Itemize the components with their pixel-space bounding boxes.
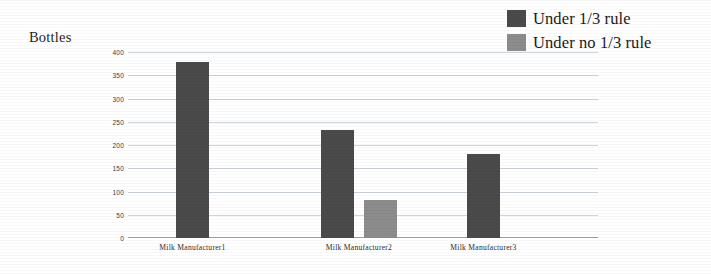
y-tick-label: 250 — [90, 118, 124, 125]
chart-plot-area — [128, 52, 598, 238]
x-axis-tick-labels: Milk Manufacturer1Milk Manufacturer2Milk… — [128, 243, 598, 261]
y-tick-label: 50 — [90, 211, 124, 218]
y-tick-label: 350 — [90, 72, 124, 79]
bar — [364, 200, 397, 238]
y-tick-label: 400 — [90, 49, 124, 56]
x-tick-label: Milk Manufacturer1 — [159, 243, 225, 252]
legend-label-under-no-1-3-rule: Under no 1/3 rule — [533, 34, 652, 52]
legend-swatch-under-1-3-rule — [507, 10, 526, 27]
bar — [176, 62, 209, 238]
x-tick-label: Milk Manufacturer2 — [326, 243, 392, 252]
legend-item-under-1-3-rule: Under 1/3 rule — [507, 8, 711, 29]
y-tick-label: 200 — [90, 142, 124, 149]
y-tick-label: 150 — [90, 165, 124, 172]
y-tick-label: 0 — [90, 235, 124, 242]
y-axis-title: Bottles — [29, 29, 72, 46]
chart-legend: Under 1/3 rule Under no 1/3 rule — [507, 8, 711, 56]
bar — [467, 154, 500, 238]
bar — [321, 130, 354, 238]
legend-swatch-under-no-1-3-rule — [507, 34, 526, 51]
y-tick-label: 300 — [90, 95, 124, 102]
gridline — [128, 52, 598, 53]
legend-label-under-1-3-rule: Under 1/3 rule — [533, 10, 631, 28]
y-tick-label: 100 — [90, 188, 124, 195]
y-axis-tick-labels: 400350300250200150100500 — [86, 52, 124, 238]
legend-item-under-no-1-3-rule: Under no 1/3 rule — [507, 32, 711, 53]
x-tick-label: Milk Manufacturer3 — [450, 243, 516, 252]
